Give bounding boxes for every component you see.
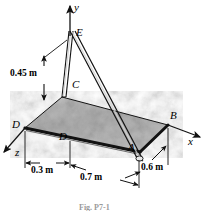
point-E-label: E <box>76 27 83 38</box>
axis-x-line <box>168 125 200 137</box>
point-C-label: C <box>72 79 79 90</box>
dimension-045-label: 0.45 m <box>10 69 37 79</box>
axis-y-label: y <box>74 2 79 13</box>
point-A-label: A <box>128 142 135 153</box>
point-D-corner-label: D <box>12 119 20 130</box>
axis-z-label: z <box>15 147 19 158</box>
dimension-06-label: 0.6 m <box>141 163 163 173</box>
figure-container: y x z E C B A D D 0.45 m 0.3 m 0.7 m 0.6… <box>0 0 208 211</box>
figure-drawing <box>0 0 208 211</box>
dimension-07-label: 0.7 m <box>80 173 102 183</box>
figure-caption: Fig. P7-1 <box>79 203 110 211</box>
axis-x-label: x <box>188 136 193 147</box>
dimension-03-label: 0.3 m <box>31 166 53 176</box>
point-B-label: B <box>170 110 177 121</box>
point-D-plate-label: D <box>59 131 67 142</box>
